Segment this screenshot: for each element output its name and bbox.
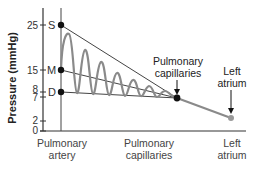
annotation-atrium-line2: atrium bbox=[217, 77, 246, 89]
arrow-down-icon bbox=[228, 90, 234, 114]
capillary-to-atrium-line bbox=[177, 98, 231, 118]
pressure-diagram: Pressure (mmHg) 25 15 8 7 2 0 S M D Pulm… bbox=[0, 0, 257, 170]
annotation-capillaries-line1: Pulmonary bbox=[153, 55, 204, 67]
capillary-point bbox=[174, 95, 181, 102]
tick-25: 25 bbox=[27, 20, 39, 31]
category-artery-line1: Pulmonary bbox=[37, 137, 88, 149]
tick-0: 0 bbox=[32, 125, 38, 136]
arrow-down-icon bbox=[174, 80, 180, 95]
label-d: D bbox=[48, 86, 56, 98]
annotation-capillaries-line2: capillaries bbox=[155, 67, 202, 79]
category-capillaries-line1: Pulmonary bbox=[124, 137, 175, 149]
label-s: S bbox=[48, 19, 55, 31]
category-artery-line2: artery bbox=[49, 149, 77, 161]
mean-point bbox=[58, 67, 64, 73]
y-axis-label: Pressure (mmHg) bbox=[6, 32, 18, 124]
diastolic-point bbox=[58, 89, 64, 95]
category-capillaries-line2: capillaries bbox=[126, 149, 173, 161]
tick-7: 7 bbox=[32, 92, 38, 103]
category-atrium-line2: atrium bbox=[217, 149, 246, 161]
tick-15: 15 bbox=[27, 65, 39, 76]
category-atrium-line1: Left bbox=[223, 137, 241, 149]
systolic-point bbox=[58, 22, 64, 28]
atrium-point bbox=[228, 115, 234, 121]
annotation-atrium-line1: Left bbox=[223, 65, 241, 77]
label-m: M bbox=[47, 64, 56, 76]
